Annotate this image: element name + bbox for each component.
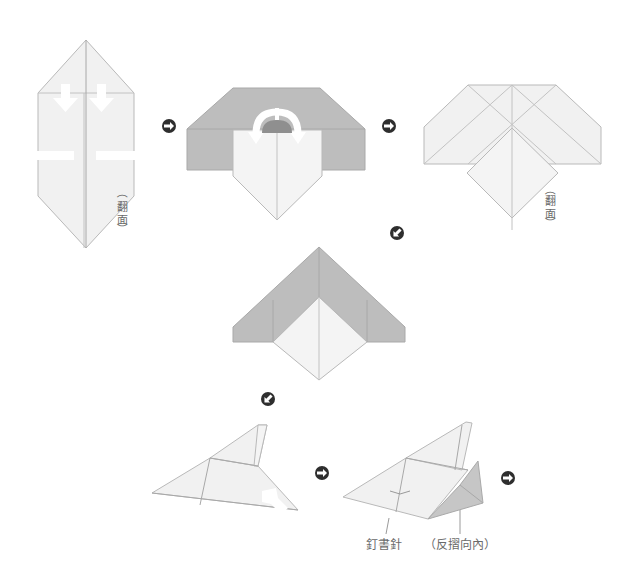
step-arrow-right-icon	[501, 471, 515, 485]
step-arrow-right-icon	[162, 119, 176, 133]
folding-diagram: （ 翻 面 ） （ 翻 面 ）	[0, 0, 643, 581]
step-4	[233, 247, 405, 380]
step2-arrow-divider	[275, 108, 279, 120]
step-2	[187, 88, 365, 220]
step-6: 釘書針 （反摺向內）	[343, 422, 496, 552]
step-arrow-right-icon	[382, 119, 396, 133]
flip-note-open: （	[543, 184, 556, 195]
step-5	[152, 425, 298, 514]
flip-note-3: （ 翻 面 ）	[543, 184, 556, 228]
staple-leader	[386, 518, 389, 534]
flip-note-close: ）	[115, 223, 128, 234]
flip-note-open: （	[115, 187, 128, 198]
step-arrow-down-left-icon	[261, 392, 275, 406]
step-3	[424, 85, 601, 230]
flip-note-line1: 翻	[117, 200, 128, 214]
flip-note-1: （ 翻 面 ）	[115, 187, 128, 234]
step-arrow-down-left-icon	[390, 226, 404, 240]
flip-note-line1: 翻	[545, 194, 556, 208]
reverse-fold-label: （反摺向內）	[424, 537, 496, 552]
step1-cut-mark-right	[96, 151, 138, 160]
step1-cut-mark-left	[34, 151, 74, 160]
flip-note-close: ）	[543, 217, 556, 228]
staple-label: 釘書針	[366, 537, 402, 552]
step-arrow-right-icon	[315, 466, 329, 480]
